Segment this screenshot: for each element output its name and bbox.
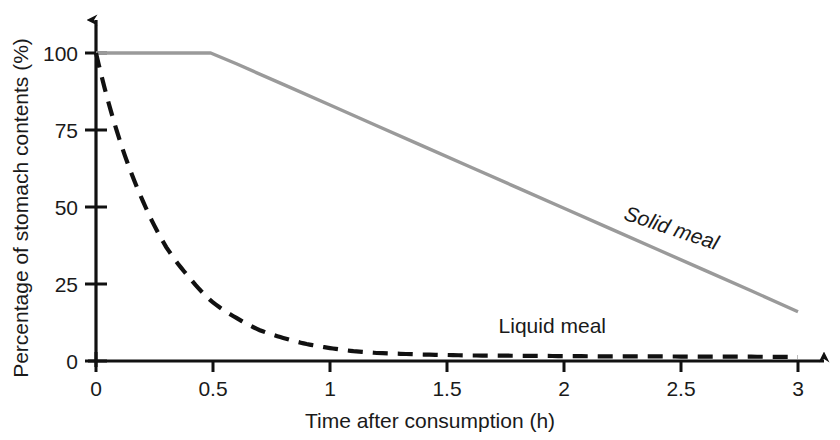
y-tick-label-50: 50: [55, 196, 78, 219]
x-tick-label-1point5: 1.5: [432, 377, 461, 400]
series-line-liquid-meal: [96, 53, 798, 357]
x-tick-label-0point5: 0.5: [198, 377, 227, 400]
x-tick-label-2point5: 2.5: [666, 377, 695, 400]
y-axis-title: Percentage of stomach contents (%): [9, 38, 32, 378]
x-tick-label-3: 3: [792, 377, 804, 400]
y-tick-label-25: 25: [55, 273, 78, 296]
x-tick-label-1: 1: [324, 377, 336, 400]
x-tick-label-2: 2: [558, 377, 570, 400]
series-label-solid-meal: Solid meal: [622, 201, 724, 254]
chart-figure: 100 75 50 25 0 0 0.5 1 1.5 2 2.5 3 Time …: [0, 0, 840, 440]
stomach-emptying-chart: 100 75 50 25 0 0 0.5 1 1.5 2 2.5 3 Time …: [0, 0, 840, 440]
y-tick-label-100: 100: [43, 42, 78, 65]
x-tick-label-0: 0: [90, 377, 102, 400]
y-tick-label-0: 0: [66, 350, 78, 373]
x-axis-title: Time after consumption (h): [305, 409, 555, 432]
y-tick-label-75: 75: [55, 119, 78, 142]
series-line-solid-meal: [96, 53, 798, 312]
series-label-liquid-meal: Liquid meal: [499, 314, 606, 337]
